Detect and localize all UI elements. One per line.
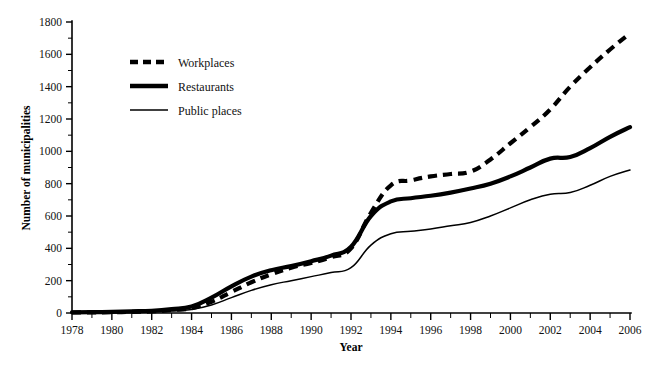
x-tick-label: 1984	[180, 324, 203, 336]
y-tick-label: 800	[45, 178, 63, 190]
y-tick-label: 1000	[39, 145, 62, 157]
y-tick-label: 400	[45, 242, 63, 254]
y-tick-label: 0	[56, 307, 62, 319]
x-tick-label: 2000	[499, 324, 522, 336]
y-tick-label: 1200	[39, 113, 62, 125]
x-axis-title: Year	[340, 341, 363, 353]
x-tick-label: 1982	[140, 324, 163, 336]
x-tick-label: 2004	[579, 324, 602, 336]
x-tick-label: 1998	[459, 324, 482, 336]
y-tick-label: 1800	[39, 16, 62, 28]
x-tick-label: 2002	[539, 324, 562, 336]
x-tick-label: 1980	[100, 324, 123, 336]
x-tick-label: 1996	[419, 324, 442, 336]
legend-label-restaurants: Restaurants	[178, 80, 234, 94]
y-tick-label: 1600	[39, 48, 62, 60]
x-tick-label: 1988	[260, 324, 283, 336]
x-tick-label: 1992	[340, 324, 363, 336]
x-tick-label: 1994	[379, 324, 402, 336]
y-tick-label: 200	[45, 275, 63, 287]
y-tick-label: 1400	[39, 81, 62, 93]
x-tick-label: 2006	[619, 324, 642, 336]
y-axis-title: Number of municipalities	[20, 105, 33, 231]
y-tick-label: 600	[45, 210, 63, 222]
line-chart: 020040060080010001200140016001800 197819…	[0, 0, 655, 373]
legend-label-workplaces: Workplaces	[178, 56, 235, 70]
x-tick-label: 1990	[300, 324, 323, 336]
legend-label-public-places: Public places	[178, 104, 242, 118]
x-tick-label: 1986	[220, 324, 243, 336]
x-tick-label: 1978	[61, 324, 84, 336]
chart-background	[0, 0, 655, 373]
chart-container: 020040060080010001200140016001800 197819…	[0, 0, 655, 373]
